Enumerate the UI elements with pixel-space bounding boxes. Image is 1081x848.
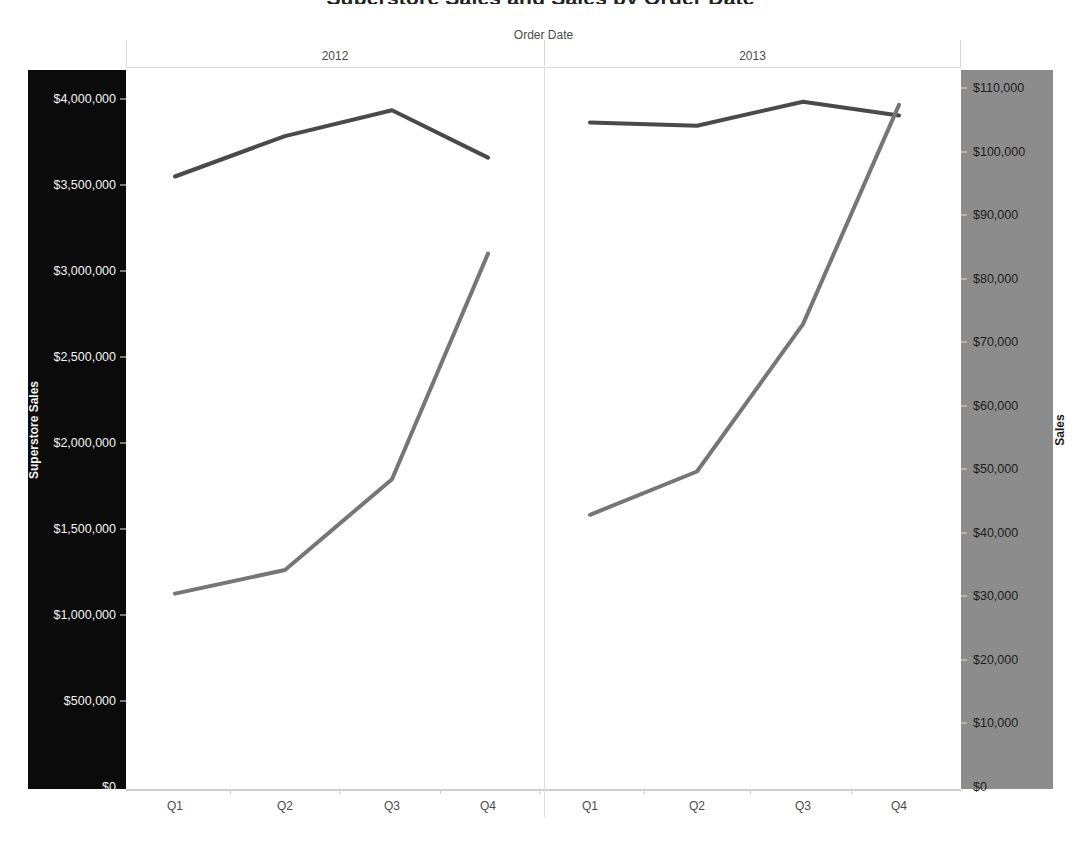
right-axis-tick-mark xyxy=(961,405,967,406)
x-axis-tick-label: Q3 xyxy=(384,799,400,813)
right-axis-tick-label: $110,000 xyxy=(973,81,1024,95)
left-axis-tick-mark xyxy=(120,529,126,530)
right-axis-tick-label: $10,000 xyxy=(973,716,1018,730)
x-axis-tick-label: Q1 xyxy=(582,799,598,813)
left-axis-tick-label: $2,500,000 xyxy=(53,350,116,364)
left-axis-tick-label: $4,000,000 xyxy=(53,92,116,106)
chart-title: Superstore Sales and Sales by Order Date xyxy=(0,0,1081,4)
x-axis-tick-label: Q2 xyxy=(689,799,705,813)
left-axis-tick-label: $2,000,000 xyxy=(53,436,116,450)
left-axis-title: Superstore Sales xyxy=(27,380,41,478)
right-axis-tick-label: $30,000 xyxy=(973,589,1018,603)
right-axis-tick-mark xyxy=(961,723,967,724)
right-axis-tick-mark xyxy=(961,469,967,470)
right-axis-tick-mark xyxy=(961,659,967,660)
right-axis-tick-mark xyxy=(961,596,967,597)
plot-svg xyxy=(126,68,961,790)
right-axis-tick-label: $80,000 xyxy=(973,272,1018,286)
right-axis: Sales $0$10,000$20,000$30,000$40,000$50,… xyxy=(961,70,1053,789)
left-axis-tick-label: $0 xyxy=(102,780,116,794)
right-axis-tick-label: $0 xyxy=(973,780,987,794)
left-axis-tick-mark xyxy=(120,443,126,444)
x-axis-tick-mark xyxy=(644,789,645,794)
sales-line xyxy=(175,254,488,594)
right-axis-tick-label: $50,000 xyxy=(973,462,1018,476)
x-axis-tick-label: Q4 xyxy=(480,799,496,813)
panel-header-2012: 2012 xyxy=(126,47,544,65)
left-axis-tick-mark xyxy=(120,701,126,702)
panel-header-2013: 2013 xyxy=(544,47,961,65)
sales-line-panel2 xyxy=(590,105,899,515)
x-axis-tick-label: Q4 xyxy=(891,799,907,813)
right-axis-tick-mark xyxy=(961,88,967,89)
x-axis: Q1Q2Q3Q4Q1Q2Q3Q4 xyxy=(126,789,961,829)
x-axis-tick-label: Q3 xyxy=(795,799,811,813)
left-axis-tick-mark xyxy=(120,185,126,186)
right-axis-title: Sales xyxy=(1052,414,1066,445)
superstore-sales-line xyxy=(175,110,488,176)
left-axis: Superstore Sales $0$500,000$1,000,000$1,… xyxy=(28,70,126,789)
plot-area xyxy=(126,67,961,791)
left-axis-tick-mark xyxy=(120,99,126,100)
x-axis-tick-mark xyxy=(339,789,340,794)
right-axis-tick-label: $70,000 xyxy=(973,335,1018,349)
left-axis-tick-label: $500,000 xyxy=(64,694,116,708)
x-axis-tick-mark xyxy=(440,789,441,794)
superstore-sales-line-panel2 xyxy=(590,102,899,126)
x-axis-tick-label: Q1 xyxy=(167,799,183,813)
right-axis-tick-label: $40,000 xyxy=(973,526,1018,540)
right-axis-tick-mark xyxy=(961,151,967,152)
x-axis-tick-label: Q2 xyxy=(277,799,293,813)
x-axis-tick-mark xyxy=(851,789,852,794)
right-axis-tick-label: $90,000 xyxy=(973,208,1018,222)
right-axis-tick-label: $100,000 xyxy=(973,145,1025,159)
left-axis-tick-label: $1,000,000 xyxy=(53,608,116,622)
right-axis-tick-mark xyxy=(961,532,967,533)
x-axis-tick-mark xyxy=(750,789,751,794)
right-axis-tick-label: $20,000 xyxy=(973,653,1018,667)
right-axis-tick-mark xyxy=(961,215,967,216)
left-axis-tick-mark xyxy=(120,615,126,616)
left-axis-tick-label: $3,000,000 xyxy=(53,264,116,278)
chart-container: Superstore Sales and Sales by Order Date… xyxy=(0,0,1081,848)
right-axis-tick-mark xyxy=(961,278,967,279)
x-axis-tick-mark xyxy=(230,789,231,794)
left-axis-tick-mark xyxy=(120,271,126,272)
left-axis-tick-mark xyxy=(120,357,126,358)
left-axis-tick-label: $3,500,000 xyxy=(53,178,116,192)
x-axis-tick-mark xyxy=(539,789,540,794)
right-axis-tick-label: $60,000 xyxy=(973,399,1018,413)
right-axis-tick-mark xyxy=(961,342,967,343)
left-axis-tick-label: $1,500,000 xyxy=(53,522,116,536)
